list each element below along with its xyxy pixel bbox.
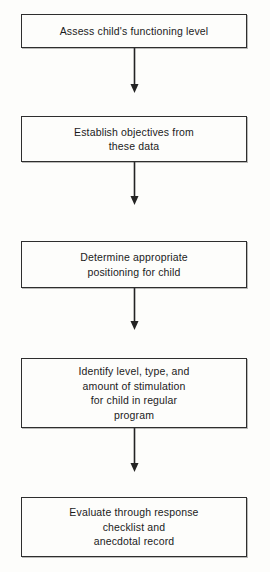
flowchart-node-label: Determine appropriate positioning for ch… [22,250,246,279]
edge-node3-to-node4 [131,288,139,330]
edge-node2-to-node3 [131,162,139,205]
flowchart-diagram: Assess child's functioning level Establi… [0,0,270,572]
flowchart-node-determine: Determine appropriate positioning for ch… [21,241,247,288]
edge-node1-to-node2 [131,48,139,93]
flowchart-node-identify: Identify level, type, and amount of stim… [21,358,247,428]
edge-node4-to-node5 [131,428,139,472]
flowchart-node-assess: Assess child's functioning level [21,14,247,48]
flowchart-node-label: Evaluate through response checklist and … [22,505,246,549]
flowchart-node-establish: Establish objectives from these data [21,116,247,162]
flowchart-node-label: Identify level, type, and amount of stim… [22,364,246,422]
flowchart-node-label: Assess child's functioning level [22,24,246,39]
flowchart-node-evaluate: Evaluate through response checklist and … [21,497,247,557]
flowchart-node-label: Establish objectives from these data [22,125,246,154]
